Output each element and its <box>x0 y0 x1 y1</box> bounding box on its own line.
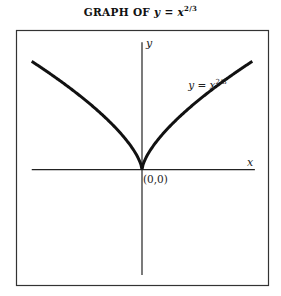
curve-label: y = x2/3 <box>187 78 227 91</box>
y-axis-label: y <box>145 37 153 50</box>
curve-label-eq: = <box>194 79 209 91</box>
curve-label-exponent: 2/3 <box>216 78 227 86</box>
origin-label: (0,0) <box>143 173 168 185</box>
x-axis-label: x <box>247 156 254 169</box>
chart-canvas: y x (0,0) y = x2/3 <box>0 0 281 296</box>
